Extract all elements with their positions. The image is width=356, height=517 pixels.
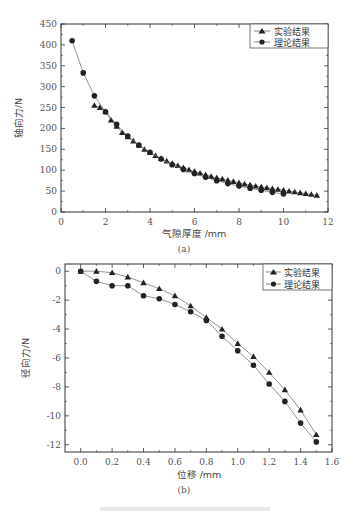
circle-data-point xyxy=(214,178,220,184)
y-tick-label: 450 xyxy=(40,19,57,29)
chart-b-radial-force: 0.00.20.40.60.81.01.21.41.60-2-4-6-8-10-… xyxy=(20,264,339,495)
circle-data-point xyxy=(181,167,187,173)
x-tick-label: 1.4 xyxy=(293,457,308,467)
circle-data-point xyxy=(114,121,120,127)
circle-data-point xyxy=(266,381,272,387)
series-line xyxy=(94,106,317,196)
chart-a-series xyxy=(69,38,320,198)
figure: 024681012050100150200250300350400450 实验结… xyxy=(0,0,356,517)
chart-a-plot-frame xyxy=(61,24,328,212)
y-tick-label: -10 xyxy=(47,411,62,421)
chart-a-ticks: 024681012050100150200250300350400450 xyxy=(40,19,334,227)
circle-data-point xyxy=(258,187,264,193)
chart-b-ticks: 0.00.20.40.60.81.01.21.41.60-2-4-6-8-10-… xyxy=(47,264,340,467)
series-line xyxy=(81,271,317,442)
x-tick-label: 0.8 xyxy=(199,457,214,467)
circle-data-point xyxy=(125,283,131,289)
circle-data-point xyxy=(225,181,231,187)
circle-data-point xyxy=(136,142,142,148)
circle-data-point xyxy=(247,185,253,191)
chart-b-x-axis-title: 位移 /mm xyxy=(177,469,222,480)
chart-b-y-axis-title: 径向力/N xyxy=(20,338,31,378)
series-line xyxy=(72,41,283,194)
y-tick-label: -8 xyxy=(52,382,61,392)
x-tick-label: 0.6 xyxy=(168,457,183,467)
triangle-data-point xyxy=(172,293,178,299)
y-tick-label: 350 xyxy=(40,61,57,71)
circle-data-point xyxy=(188,309,194,315)
x-tick-label: 10 xyxy=(278,217,290,227)
figure-caption-faded xyxy=(100,507,270,511)
circle-data-point xyxy=(103,109,109,115)
chart-a-caption: (a) xyxy=(178,244,190,254)
chart-a-legend: 实验结果 理论结果 xyxy=(250,24,328,48)
circle-data-point xyxy=(80,70,86,76)
chart-b-caption: (b) xyxy=(178,485,191,495)
chart-b-plot-frame xyxy=(65,264,332,452)
legend-label-experiment: 实验结果 xyxy=(274,26,310,37)
x-tick-label: 0.2 xyxy=(105,457,119,467)
triangle-data-point xyxy=(219,326,225,332)
circle-data-point xyxy=(172,302,178,308)
triangle-data-point xyxy=(91,102,97,108)
y-tick-label: 300 xyxy=(40,82,57,92)
circle-data-point xyxy=(270,190,276,196)
circle-data-point xyxy=(204,318,210,324)
series-line xyxy=(81,271,317,434)
y-tick-label: -6 xyxy=(52,353,61,363)
y-tick-label: 250 xyxy=(40,103,57,113)
legend-label-theory: 理论结果 xyxy=(274,37,310,48)
x-tick-label: 1.2 xyxy=(262,457,276,467)
legend-label-experiment: 实验结果 xyxy=(284,267,320,278)
x-tick-label: 8 xyxy=(236,217,242,227)
y-tick-label: -2 xyxy=(52,295,61,305)
y-tick-label: 0 xyxy=(51,207,57,217)
circle-data-point xyxy=(141,293,147,299)
circle-data-point xyxy=(169,162,175,168)
circle-data-point xyxy=(236,183,242,189)
x-tick-label: 0.4 xyxy=(136,457,151,467)
circle-data-point xyxy=(69,38,75,44)
chart-a-y-axis-title: 轴向力/N xyxy=(13,98,24,138)
circle-data-point xyxy=(158,156,164,162)
circle-data-point xyxy=(156,296,162,302)
legend-label-theory: 理论结果 xyxy=(284,279,320,290)
y-tick-label: 400 xyxy=(40,40,57,50)
triangle-data-point xyxy=(187,303,193,309)
circle-data-point xyxy=(298,420,304,426)
circle-data-point xyxy=(147,149,153,155)
chart-b-series xyxy=(78,268,320,445)
x-tick-label: 0.0 xyxy=(74,457,89,467)
circle-data-point xyxy=(203,175,209,181)
chart-b-legend: 实验结果 理论结果 xyxy=(263,264,332,290)
x-tick-label: 1.6 xyxy=(325,457,340,467)
triangle-data-point xyxy=(313,431,319,437)
y-tick-label: 0 xyxy=(55,266,61,276)
circle-data-point xyxy=(92,93,98,99)
circle-data-point xyxy=(192,171,198,177)
circle-data-point xyxy=(235,348,241,354)
circle-marker-icon xyxy=(259,39,264,44)
chart-a-axial-force: 024681012050100150200250300350400450 实验结… xyxy=(13,19,334,254)
circle-data-point xyxy=(282,399,288,405)
y-tick-label: -12 xyxy=(47,440,62,450)
chart-a-x-axis-title: 气隙厚度 /mm xyxy=(162,228,227,239)
y-tick-label: 100 xyxy=(40,165,57,175)
x-tick-label: 0 xyxy=(58,217,64,227)
x-tick-label: 4 xyxy=(147,217,153,227)
circle-data-point xyxy=(109,283,115,289)
x-tick-label: 6 xyxy=(192,217,198,227)
x-tick-label: 1.0 xyxy=(231,457,246,467)
x-tick-label: 2 xyxy=(103,217,109,227)
circle-data-point xyxy=(125,133,131,139)
x-tick-label: 12 xyxy=(322,217,333,227)
y-tick-label: 200 xyxy=(40,123,57,133)
circle-data-point xyxy=(219,334,225,340)
circle-data-point xyxy=(251,362,257,368)
circle-data-point xyxy=(281,191,287,197)
circle-marker-icon xyxy=(271,281,276,286)
y-tick-label: 150 xyxy=(40,144,57,154)
y-tick-label: 50 xyxy=(46,186,58,196)
circle-data-point xyxy=(94,279,100,285)
circle-data-point xyxy=(78,268,84,274)
